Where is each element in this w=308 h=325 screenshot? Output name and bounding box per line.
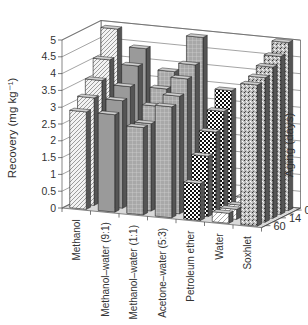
- bar: [70, 108, 91, 209]
- chart-canvas: 00.511.522.533.544.55Recovery (mg kg⁻¹)M…: [0, 0, 308, 325]
- recovery-3d-bar-chart: 00.511.522.533.544.55Recovery (mg kg⁻¹)M…: [0, 0, 308, 325]
- z-tick-label: 60: [273, 220, 285, 232]
- y-axis-label: Recovery (mg kg⁻¹): [6, 78, 18, 179]
- y-tick-label: 0: [50, 202, 56, 214]
- y-tick-label: 3: [50, 101, 56, 113]
- y-tick-label: 3.5: [41, 84, 56, 96]
- x-tick-label: Soxhlet: [242, 236, 253, 270]
- x-tick-label: Petroleum ether: [185, 230, 196, 302]
- bar: [127, 124, 148, 215]
- y-tick-label: 1.5: [41, 151, 56, 163]
- x-tick-label: Methanol–water (1:1): [128, 225, 139, 320]
- x-tick-label: Water: [214, 233, 225, 260]
- bar: [212, 209, 233, 223]
- x-tick-label: Methanol–water (9:1): [100, 222, 111, 317]
- y-tick-label: 4: [50, 67, 56, 79]
- y-tick-label: 5: [50, 34, 56, 46]
- z-axis-label: Aging (days): [283, 113, 295, 178]
- bar: [98, 111, 119, 212]
- x-tick-label: Acetone–water (5:3): [157, 228, 168, 318]
- bar: [184, 180, 205, 221]
- y-tick-label: 2.5: [41, 118, 56, 130]
- z-tick-label: 14: [289, 212, 301, 224]
- y-tick-label: 4.5: [41, 50, 56, 62]
- bar: [155, 103, 176, 218]
- y-tick-label: 1: [50, 168, 56, 180]
- bar: [241, 81, 262, 226]
- z-tick-label: 0: [305, 204, 308, 216]
- y-tick-label: 0.5: [41, 185, 56, 197]
- x-tick-label: Methanol: [71, 219, 82, 260]
- y-tick-label: 2: [50, 134, 56, 146]
